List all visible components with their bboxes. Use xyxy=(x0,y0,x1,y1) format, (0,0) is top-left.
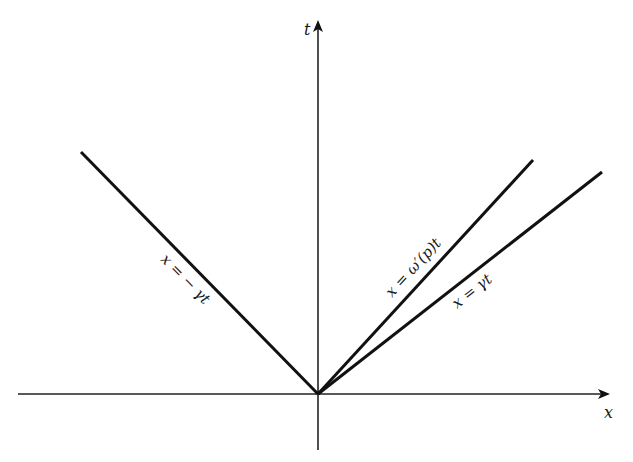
line-gamma-t xyxy=(318,172,602,394)
line-omega-prime-t xyxy=(318,160,533,394)
t-axis-label: t xyxy=(304,20,311,39)
characteristics-diagram: t x x = − γt x = ω′(p)t x = γt xyxy=(0,0,633,462)
line-minus-gamma-t xyxy=(81,152,318,394)
x-axis-label: x xyxy=(604,403,613,422)
label-gamma-t: x = γt xyxy=(448,269,496,312)
